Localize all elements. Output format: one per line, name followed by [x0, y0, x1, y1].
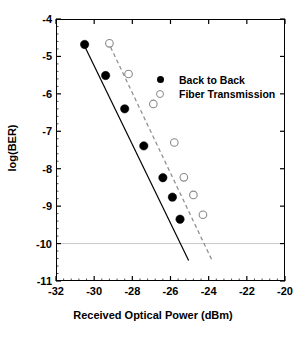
data-point-filled	[159, 173, 167, 181]
legend-label: Back to Back	[168, 74, 245, 86]
x-tick-label: -20	[277, 285, 293, 297]
x-tick-label: -32	[48, 285, 64, 297]
y-tick-label: -8	[42, 163, 52, 175]
data-point-open	[171, 139, 179, 147]
x-tick-label: -28	[124, 285, 140, 297]
legend-item-back-to-back: Back to Back	[152, 73, 277, 86]
chart-legend: Back to Back Fiber Transmission	[152, 73, 277, 101]
x-tick-label: -24	[201, 285, 217, 297]
data-point-filled	[121, 105, 129, 113]
filled-circle-icon	[152, 76, 168, 83]
data-point-open	[199, 211, 207, 219]
data-point-open	[190, 191, 198, 199]
x-tick-label: -30	[86, 285, 102, 297]
x-axis-title: Received Optical Power (dBm)	[0, 309, 306, 321]
ber-vs-received-power-chart: -4-5-6-7-8-9-10-11 -32-30-28-26-24-22-20…	[0, 0, 306, 337]
y-tick-label: -10	[36, 238, 52, 250]
y-tick-label: -7	[42, 125, 52, 137]
data-point-filled	[101, 71, 109, 79]
y-tick-label: -5	[42, 50, 52, 62]
data-point-open	[125, 70, 133, 78]
x-tick-label: -22	[239, 285, 255, 297]
data-point-filled	[176, 215, 184, 223]
y-tick-label: -9	[42, 200, 52, 212]
data-point-filled	[168, 193, 176, 201]
data-point-open	[180, 174, 188, 182]
data-point-open	[150, 100, 158, 108]
y-axis-title: log(BER)	[6, 88, 18, 208]
data-point-filled	[140, 142, 148, 150]
data-point-open	[106, 40, 114, 48]
y-tick-label: -6	[42, 88, 52, 100]
legend-item-fiber-transmission: Fiber Transmission	[152, 87, 277, 100]
x-tick-label: -26	[163, 285, 179, 297]
y-tick-label: -4	[42, 13, 52, 25]
data-point-filled	[80, 40, 88, 48]
open-circle-icon	[152, 90, 168, 98]
legend-label: Fiber Transmission	[168, 88, 275, 100]
